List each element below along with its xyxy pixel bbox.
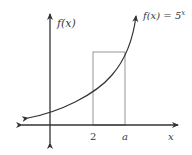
x-axis-label: x <box>168 131 174 142</box>
function-label: f(x) = 5x <box>142 9 185 21</box>
tick-label-a: a <box>122 131 128 142</box>
y-axis-label: f(x) <box>56 17 76 30</box>
tick-label-2: 2 <box>90 131 96 142</box>
exponential-curve <box>28 16 136 118</box>
exponential-graph: f(x) f(x) = 5x 2 a x <box>0 0 192 155</box>
